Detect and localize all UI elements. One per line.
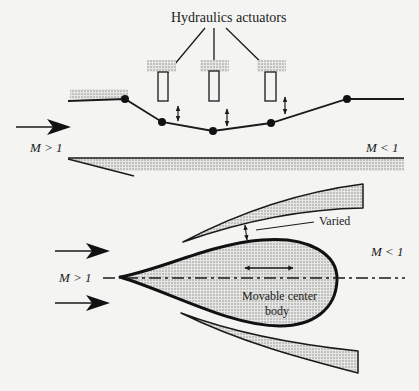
inflow-arrow-lower: [55, 295, 110, 311]
lower-wall: [68, 158, 404, 176]
bottom-outflow-mach-label: M < 1: [371, 245, 404, 258]
ramp-inlet-panel: [16, 28, 404, 176]
actuator-3: [265, 72, 276, 101]
upper-cowl: [183, 184, 363, 242]
inflow-arrow-top: [16, 119, 71, 135]
spike-inlet-panel: [55, 184, 405, 373]
center-body-label-line1: Movable center: [242, 290, 312, 302]
inlet-diagram: [0, 0, 419, 391]
bottom-inflow-mach-label: M > 1: [59, 271, 92, 284]
varied-leader-line: [256, 222, 314, 230]
actuator-cylinders: [158, 71, 276, 101]
center-body-label-line2: body: [242, 305, 312, 317]
inflow-arrow-upper: [55, 243, 110, 259]
actuator-2: [209, 71, 219, 101]
ramp-hinges: [121, 95, 351, 135]
gap-arrow: [245, 225, 247, 240]
varied-label: Varied: [319, 215, 350, 227]
hydraulics-actuators-label: Hydraulics actuators: [171, 11, 286, 25]
top-inflow-mach-label: M > 1: [30, 141, 63, 154]
actuator-mounts: [147, 60, 286, 72]
actuator-1: [158, 72, 168, 101]
hinged-ramp: [68, 99, 404, 131]
upper-wall-hatch: [70, 89, 128, 99]
top-outflow-mach-label: M < 1: [366, 141, 399, 154]
